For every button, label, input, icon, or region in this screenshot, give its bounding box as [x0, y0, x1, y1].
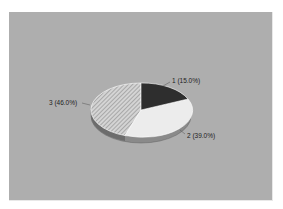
leader-line-1 — [163, 82, 170, 86]
leader-line-3 — [82, 103, 90, 105]
pie-label-2: 2 (39.0%) — [187, 132, 215, 140]
pie-chart: 1 (15.0%) 2 (39.0%) 3 (46.0%) — [0, 0, 283, 209]
pie-label-3: 3 (46.0%) — [49, 99, 77, 107]
pie-label-1: 1 (15.0%) — [172, 77, 200, 85]
